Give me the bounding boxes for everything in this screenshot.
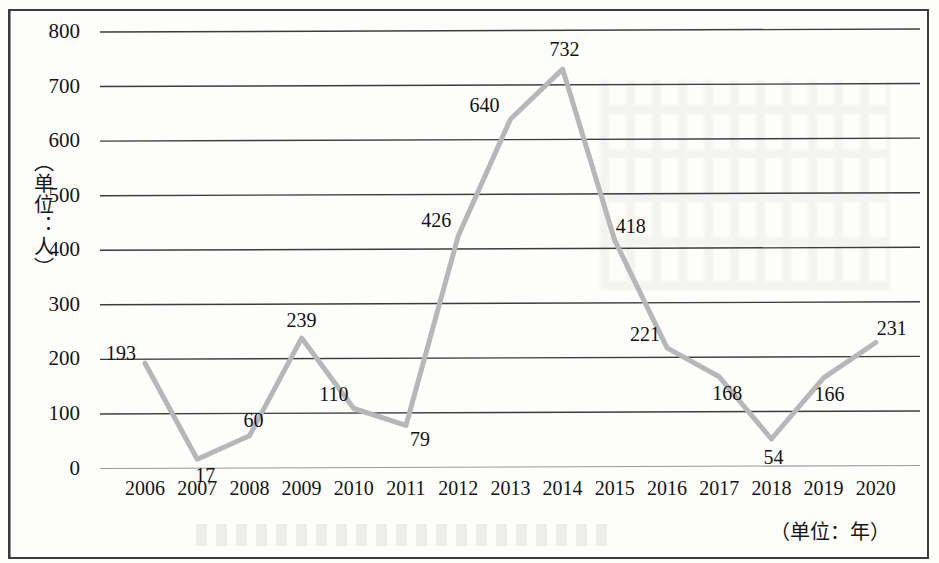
y-axis-tick-label: 200 xyxy=(22,348,80,369)
data-point-label: 418 xyxy=(616,216,646,236)
data-point-label: 231 xyxy=(877,318,907,338)
data-point-label: 60 xyxy=(243,410,263,430)
y-axis-tick-label: 300 xyxy=(22,293,80,314)
x-axis-unit-label: （单位：年） xyxy=(770,522,890,542)
data-series-group xyxy=(145,69,876,459)
gridline xyxy=(100,302,920,305)
data-point-label: 221 xyxy=(630,324,660,344)
data-point-label: 640 xyxy=(469,95,499,115)
y-axis-unit-label: （单位：人） xyxy=(14,152,52,278)
gridline xyxy=(100,356,920,359)
y-axis-tick-label: 700 xyxy=(22,75,80,96)
gridline-group xyxy=(100,29,920,469)
data-point-label: 239 xyxy=(287,310,317,330)
gridline xyxy=(100,84,920,87)
data-point-label: 79 xyxy=(410,429,430,449)
data-point-label: 168 xyxy=(712,383,742,403)
y-axis-tick-label: 600 xyxy=(22,130,80,151)
gridline xyxy=(100,193,920,196)
chart-figure: 0100200300400500600700800 20062007200820… xyxy=(0,0,939,563)
gridline xyxy=(100,138,920,141)
x-axis-tick-label: 2020 xyxy=(844,478,908,498)
y-axis-tick-label: 800 xyxy=(22,21,80,42)
data-point-label: 193 xyxy=(106,343,136,363)
y-axis-tick-label: 0 xyxy=(22,457,80,478)
data-point-label: 426 xyxy=(421,210,451,230)
data-point-label: 166 xyxy=(815,384,845,404)
y-axis-tick-label: 100 xyxy=(22,402,80,423)
data-point-label: 110 xyxy=(319,384,348,404)
gridline xyxy=(100,466,920,469)
data-point-label: 732 xyxy=(550,39,580,59)
data-series-line xyxy=(145,69,876,459)
data-point-label: 54 xyxy=(763,447,783,467)
gridline xyxy=(100,247,920,250)
gridline xyxy=(100,29,920,32)
data-point-label: 17 xyxy=(195,465,215,485)
